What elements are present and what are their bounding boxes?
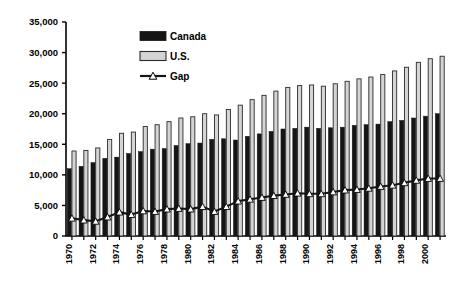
bar-canada-1980 [186,144,190,236]
bar-canada-1995 [364,125,368,236]
bar-us-1976 [143,127,147,236]
bar-us-1989 [298,86,302,236]
bar-us-1996 [381,75,385,236]
bar-us-1986 [262,95,266,236]
legend-swatch-canada [140,32,166,41]
bar-canada-2000 [423,116,427,236]
bar-us-1988 [286,87,290,236]
bar-us-1995 [369,77,373,236]
legend-item-us[interactable]: U.S. [140,51,190,62]
bar-canada-1993 [340,127,344,236]
bar-canada-1978 [162,149,166,236]
bar-us-1973 [108,139,112,236]
bar-us-1970 [72,151,76,236]
bar-canada-1991 [317,128,321,236]
bar-canada-1977 [150,149,154,236]
bar-canada-1997 [388,122,392,236]
y-tick-label: 35,000 [29,16,58,27]
bar-us-1977 [155,125,159,236]
bar-us-1993 [345,81,349,236]
x-tick-label: 1996 [373,244,383,264]
x-tick-label: 1994 [349,244,359,264]
bar-canada-1994 [352,125,356,236]
bar-canada-1985 [245,136,249,236]
y-tick-label: 5,000 [34,200,58,211]
x-tick-label: 1976 [135,244,145,264]
bar-us-1979 [179,118,183,236]
bar-canada-1973 [103,158,107,236]
bar-us-1982 [214,115,218,236]
bar-canada-1983 [222,139,226,236]
chart-container: 05,00010,00015,00020,00025,00030,00035,0… [0,0,468,282]
bar-canada-1970 [67,169,71,236]
bar-us-2000 [428,59,432,236]
bar-canada-1998 [400,120,404,236]
x-tick-label: 1988 [278,244,288,264]
x-tick-label: 1990 [301,244,311,264]
legend-label: Canada [170,31,207,42]
x-tick-label: 1970 [64,244,74,264]
x-tick-label: 1992 [325,244,335,264]
legend-item-canada[interactable]: Canada [140,31,207,42]
legend-label: Gap [170,71,189,82]
bar-us-1975 [131,132,135,236]
x-tick-label: 1978 [159,244,169,264]
bar-canada-1974 [115,157,119,236]
y-tick-label: 20,000 [29,108,58,119]
bar-canada-1984 [233,140,237,236]
bar-us-1997 [393,71,397,236]
bar-canada-1981 [198,143,202,236]
y-tick-label: 10,000 [29,169,58,180]
bar-canada-2001 [435,114,439,236]
x-tick-label: 2000 [420,244,430,264]
bar-us-1984 [238,105,242,236]
bar-canada-1971 [79,166,83,236]
bar-canada-1986 [257,134,261,236]
bar-us-1998 [404,67,408,236]
bar-canada-1999 [412,118,416,236]
x-tick-label: 1986 [254,244,264,264]
y-tick-label: 0 [53,230,58,241]
bar-canada-1975 [127,153,131,236]
bar-us-1987 [274,91,278,236]
x-tick-label: 1998 [396,244,406,264]
y-tick-label: 15,000 [29,139,58,150]
legend-swatch-us [140,52,166,61]
bar-us-2001 [440,56,444,236]
y-tick-label: 30,000 [29,47,58,58]
x-tick-label: 1974 [111,244,121,264]
bar-canada-1996 [376,124,380,236]
x-tick-label: 1980 [183,244,193,264]
bar-canada-1976 [138,152,142,236]
x-tick-label: 1972 [88,244,98,264]
bar-us-1990 [309,85,313,236]
bar-us-1999 [416,62,420,236]
bar-canada-1989 [293,128,297,236]
y-tick-label: 25,000 [29,78,58,89]
bar-us-1983 [226,109,230,236]
bar-us-1992 [333,84,337,236]
legend-label: U.S. [170,51,190,62]
bar-us-1994 [357,79,361,236]
bar-canada-1987 [269,131,273,236]
bar-us-1980 [191,117,195,236]
bar-canada-1992 [328,128,332,236]
bar-canada-1982 [210,139,214,236]
bar-us-1978 [167,122,171,236]
bar-us-1991 [321,86,325,236]
x-tick-label: 1984 [230,244,240,264]
bar-canada-1990 [305,127,309,236]
grouped-bar-chart: 05,00010,00015,00020,00025,00030,00035,0… [0,0,468,282]
bar-us-1985 [250,100,254,236]
bar-canada-1972 [91,163,95,236]
bar-us-1981 [203,114,207,236]
x-tick-label: 1982 [206,244,216,264]
bar-canada-1988 [281,129,285,236]
bar-canada-1979 [174,146,178,236]
bar-us-1974 [119,133,123,236]
